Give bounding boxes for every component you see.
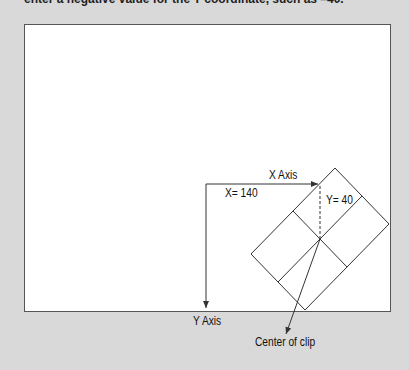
center-pointer-arrow — [286, 239, 320, 334]
y-value-label: Y= 40 — [326, 193, 353, 207]
x-axis-label: X Axis — [269, 168, 297, 182]
y-axis-label: Y Axis — [193, 314, 221, 328]
x-value-label: X= 140 — [225, 186, 258, 200]
center-of-clip-label: Center of clip — [255, 335, 315, 349]
